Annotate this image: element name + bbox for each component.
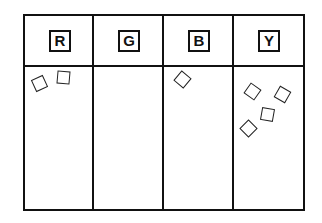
column-header-g: G: [94, 16, 164, 65]
column-header-r: R: [25, 16, 95, 65]
column-label-b: B: [188, 30, 210, 52]
column-label-r: R: [49, 30, 71, 52]
chip-y: [260, 107, 275, 122]
column-label-g: G: [118, 30, 140, 52]
column-header-b: B: [164, 16, 234, 65]
column-label-y: Y: [258, 30, 280, 52]
column-header-y: Y: [234, 16, 304, 65]
chip-r: [56, 70, 70, 84]
header-divider: [25, 65, 303, 67]
